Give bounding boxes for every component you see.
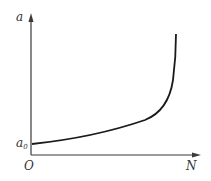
origin-label: O [24,159,34,173]
curve-a-vs-n [32,34,176,144]
chart-canvas: a N O a0 [0,0,211,181]
a0-label: a0 [16,136,28,151]
y-axis-label: a [16,10,23,24]
x-axis-label: N [185,159,197,173]
x-axis-arrow-icon [192,153,201,158]
y-axis-arrow-icon [29,13,34,22]
